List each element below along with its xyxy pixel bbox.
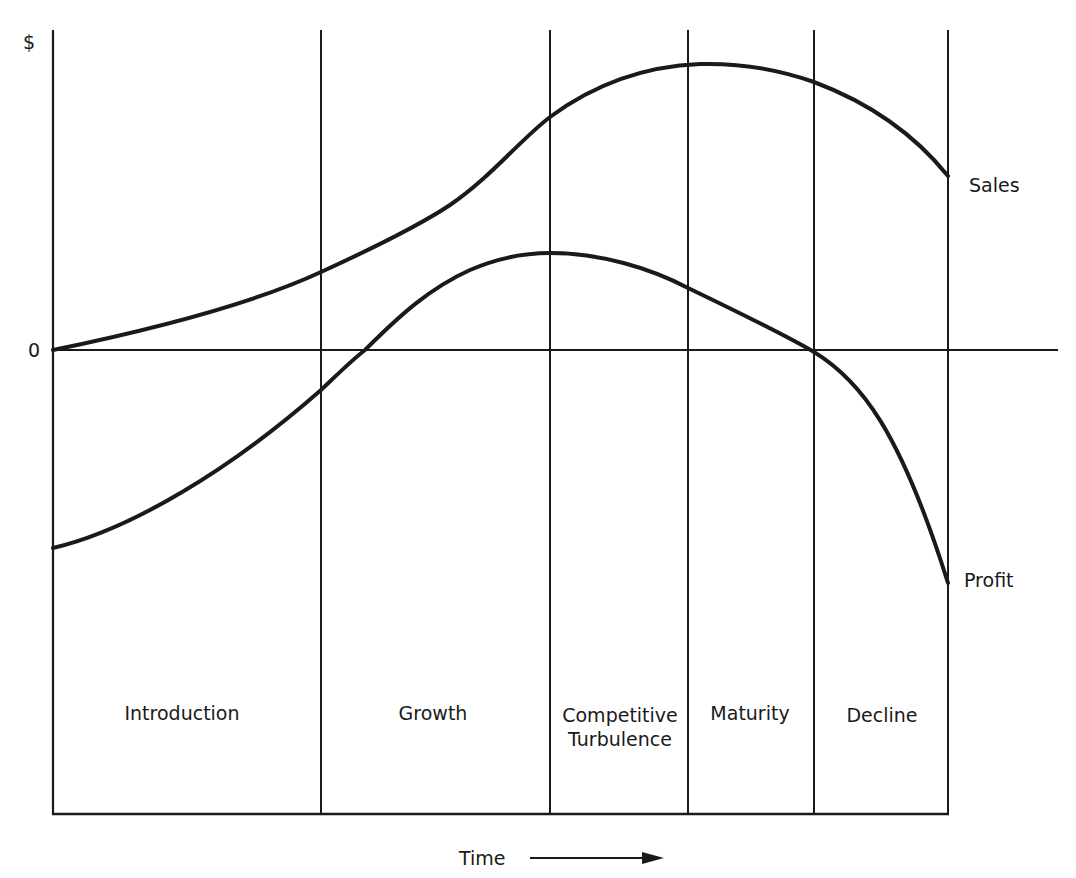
stage-competitive-line2: Turbulence (562, 727, 678, 751)
stage-competitive-turbulence: Competitive Turbulence (562, 703, 678, 751)
stage-growth: Growth (399, 701, 468, 725)
profit-label: Profit (964, 568, 1014, 592)
stage-introduction: Introduction (124, 701, 239, 725)
x-axis-label: Time (459, 846, 506, 870)
stage-maturity: Maturity (710, 701, 789, 725)
y-axis-label: $ (23, 30, 35, 54)
time-arrow-head-icon (642, 852, 664, 864)
sales-label: Sales (969, 173, 1020, 197)
stage-competitive-line1: Competitive (562, 703, 678, 727)
stage-decline: Decline (846, 703, 917, 727)
product-life-cycle-diagram (0, 0, 1076, 878)
zero-label: 0 (28, 338, 40, 362)
